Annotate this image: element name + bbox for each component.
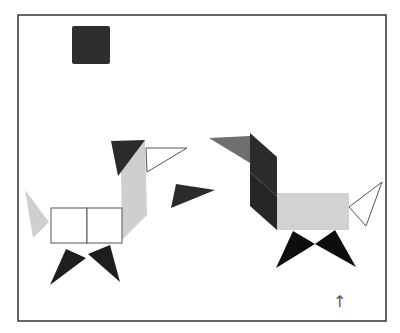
right-figure-leg-left[interactable] bbox=[276, 231, 315, 268]
up-arrow-icon: ↑ bbox=[333, 294, 346, 310]
left-figure-leg-right[interactable] bbox=[88, 245, 120, 282]
right-figure-body-rectangle[interactable] bbox=[277, 193, 349, 230]
loose-dark-square[interactable] bbox=[72, 26, 110, 64]
loose-dark-triangle[interactable] bbox=[171, 184, 215, 208]
left-figure-body-square-right[interactable] bbox=[87, 208, 122, 243]
left-figure-beak-triangle[interactable] bbox=[146, 148, 187, 172]
right-figure-leg-right[interactable] bbox=[315, 230, 356, 267]
tangram-canvas bbox=[0, 0, 400, 333]
left-figure-leg-left[interactable] bbox=[50, 249, 86, 285]
right-figure bbox=[209, 133, 382, 268]
left-figure-tail-triangle[interactable] bbox=[25, 190, 49, 238]
right-figure-beak-triangle[interactable] bbox=[209, 136, 250, 163]
right-figure-tail-triangle[interactable] bbox=[349, 182, 382, 226]
left-figure-body-square-left[interactable] bbox=[51, 208, 87, 243]
left-figure bbox=[25, 140, 187, 285]
